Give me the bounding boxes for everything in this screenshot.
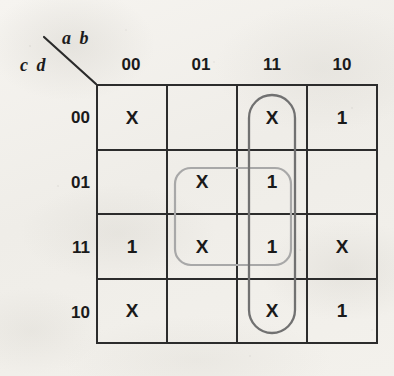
kmap-cell-r10-c00[interactable]: X <box>98 280 168 345</box>
row-header-00: 00 <box>34 108 90 128</box>
cell-value: 1 <box>267 172 278 191</box>
kmap-cell-r10-c01[interactable] <box>168 280 238 345</box>
kmap-cell-r01-c01[interactable]: X <box>168 151 238 216</box>
kmap-cell-r11-c00[interactable]: 1 <box>98 215 168 280</box>
cell-value: 1 <box>337 108 348 127</box>
kmap-cell-r01-c10[interactable] <box>308 151 378 216</box>
cell-value: 1 <box>337 301 348 320</box>
kmap-grid: X X 1 X 1 1 X 1 X X X 1 <box>96 84 378 344</box>
cell-value: X <box>196 172 209 191</box>
cell-value: X <box>126 108 139 127</box>
axis-label-ab: a b <box>62 28 91 49</box>
kmap-cell-r01-c11[interactable]: 1 <box>238 151 308 216</box>
cell-value: 1 <box>267 237 278 256</box>
cell-value: X <box>196 237 209 256</box>
kmap-cell-r00-c01[interactable] <box>168 86 238 151</box>
kmap-cell-r10-c11[interactable]: X <box>238 280 308 345</box>
row-header-10: 10 <box>34 303 90 323</box>
kmap-cell-r11-c10[interactable]: X <box>308 215 378 280</box>
kmap-figure: a b c d 00 01 11 10 00 01 11 10 X X 1 X … <box>0 0 394 376</box>
cell-value: X <box>266 108 279 127</box>
column-header-11: 11 <box>237 55 307 75</box>
column-header-10: 10 <box>307 55 377 75</box>
row-header-11: 11 <box>34 238 90 258</box>
row-header-01: 01 <box>34 173 90 193</box>
cell-value: X <box>336 237 349 256</box>
column-header-01: 01 <box>166 55 236 75</box>
kmap-cell-r00-c10[interactable]: 1 <box>308 86 378 151</box>
axis-label-cd: c d <box>20 55 48 76</box>
kmap-cell-r10-c10[interactable]: 1 <box>308 280 378 345</box>
cell-value: X <box>266 301 279 320</box>
kmap-cell-r11-c01[interactable]: X <box>168 215 238 280</box>
cell-value: X <box>126 301 139 320</box>
kmap-cell-r01-c00[interactable] <box>98 151 168 216</box>
kmap-cell-r00-c11[interactable]: X <box>238 86 308 151</box>
kmap-cell-r11-c11[interactable]: 1 <box>238 215 308 280</box>
kmap-cell-r00-c00[interactable]: X <box>98 86 168 151</box>
column-header-00: 00 <box>96 55 166 75</box>
cell-value: 1 <box>127 237 138 256</box>
